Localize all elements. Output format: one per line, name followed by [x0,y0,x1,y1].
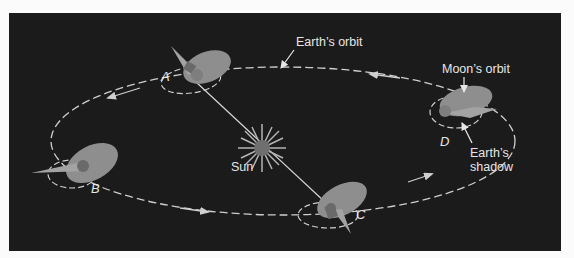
sun-label: Sun [231,160,253,174]
position-b-label: B [91,181,100,196]
earth-b [77,160,89,172]
earth-shadow-label-line2: shadow [470,160,514,174]
earth-d [439,105,451,117]
position-d-label: D [440,134,449,149]
earth-shadow-label-line1: Earth’s [470,146,509,160]
earth-moon-orbit-diagram: Sun A B C D Earth’s orbit Moon’s orbit [0,0,574,258]
moon-orbit-label: Moon’s orbit [442,62,510,76]
position-c-label: C [356,207,366,222]
earth-orbit-label: Earth’s orbit [296,35,363,49]
earth-a [191,69,203,81]
position-a-label: A [160,69,170,84]
earth-c [326,203,336,213]
